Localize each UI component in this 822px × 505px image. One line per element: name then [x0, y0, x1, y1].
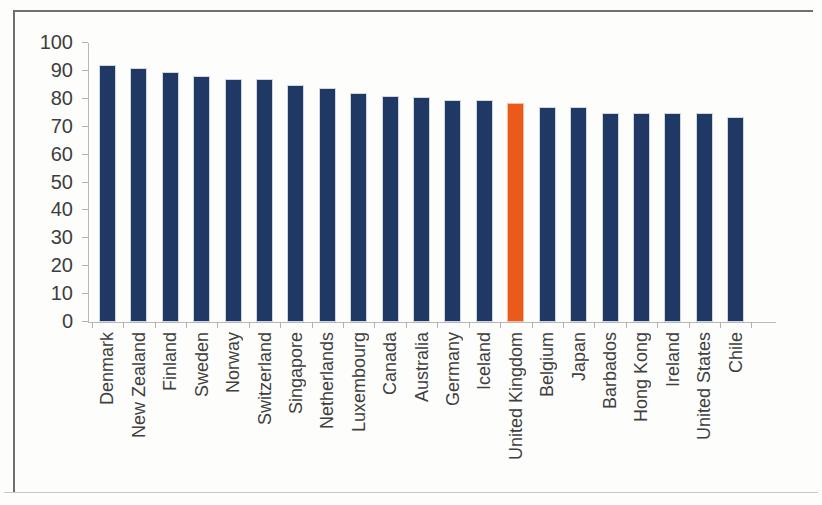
- x-axis-label-united-kingdom: United Kingdom: [507, 332, 525, 460]
- frame-border-bottom: [4, 492, 818, 493]
- bar-japan: [570, 107, 587, 322]
- x-axis-tick: [312, 322, 313, 328]
- y-axis-tick: 60: [82, 154, 88, 155]
- x-axis-tick: [437, 322, 438, 328]
- frame-border-top: [13, 10, 813, 12]
- x-axis-label-chile: Chile: [727, 332, 745, 373]
- bar-new-zealand: [130, 68, 147, 322]
- bar-germany: [444, 100, 461, 322]
- x-axis-label-switzerland: Switzerland: [256, 332, 274, 425]
- y-axis-tick: 0: [82, 321, 88, 322]
- chart-figure: 0102030405060708090100 DenmarkNew Zealan…: [0, 0, 822, 505]
- x-axis-tick: [155, 322, 156, 328]
- y-axis-tick-label: 40: [51, 199, 73, 219]
- y-axis-tick: 90: [82, 70, 88, 71]
- bar-netherlands: [319, 88, 336, 322]
- x-axis-line: [88, 322, 776, 323]
- bar-singapore: [287, 85, 304, 322]
- y-axis-tick: 50: [82, 182, 88, 183]
- y-axis-tick-label: 0: [62, 311, 73, 331]
- x-axis-label-australia: Australia: [413, 332, 431, 402]
- x-axis-tick: [374, 322, 375, 328]
- plot-area: 0102030405060708090100: [88, 43, 774, 322]
- x-axis-tick: [280, 322, 281, 328]
- bar-finland: [162, 72, 179, 322]
- y-axis-tick: 80: [82, 98, 88, 99]
- x-axis-tick: [186, 322, 187, 328]
- x-axis-label-japan: Japan: [570, 332, 588, 381]
- y-axis-tick-label: 10: [51, 283, 73, 303]
- x-axis-label-canada: Canada: [381, 332, 399, 395]
- y-axis-tick: 20: [82, 265, 88, 266]
- x-axis-label-germany: Germany: [444, 332, 462, 406]
- frame-border-left: [13, 10, 15, 493]
- x-axis-label-belgium: Belgium: [538, 332, 556, 397]
- x-axis-label-denmark: Denmark: [98, 332, 116, 405]
- x-axis-tick: [500, 322, 501, 328]
- y-axis-tick-label: 30: [51, 227, 73, 247]
- y-axis-tick-label: 50: [51, 172, 73, 192]
- x-axis-tick: [92, 322, 93, 328]
- bar-series: [88, 43, 774, 322]
- x-axis-label-iceland: Iceland: [475, 332, 493, 390]
- x-axis-tick: [563, 322, 564, 328]
- x-axis-tick: [720, 322, 721, 328]
- x-axis-tick: [123, 322, 124, 328]
- y-axis-tick: 100: [82, 42, 88, 43]
- x-axis-tick: [657, 322, 658, 328]
- x-axis-tick: [217, 322, 218, 328]
- x-axis-tick: [249, 322, 250, 328]
- bar-iceland: [476, 100, 493, 322]
- bar-united-states: [696, 113, 713, 322]
- x-axis-label-luxembourg: Luxembourg: [350, 332, 368, 432]
- x-axis-label-netherlands: Netherlands: [318, 332, 336, 429]
- x-axis-label-barbados: Barbados: [601, 332, 619, 409]
- x-axis-label-new-zealand: New Zealand: [130, 332, 148, 438]
- y-axis-tick-label: 100: [40, 32, 73, 52]
- bar-switzerland: [256, 79, 273, 322]
- x-axis-tick: [626, 322, 627, 328]
- x-axis-label-hong-kong: Hong Kong: [632, 332, 650, 422]
- x-axis-label-finland: Finland: [161, 332, 179, 391]
- x-axis-tick: [689, 322, 690, 328]
- bar-canada: [382, 96, 399, 322]
- x-axis-tick: [751, 322, 752, 328]
- bar-belgium: [539, 107, 556, 322]
- y-axis-tick-label: 90: [51, 60, 73, 80]
- bar-sweden: [193, 76, 210, 322]
- x-axis-labels: DenmarkNew ZealandFinlandSwedenNorwaySwi…: [88, 332, 774, 492]
- bar-australia: [413, 97, 430, 322]
- x-axis-label-ireland: Ireland: [664, 332, 682, 387]
- x-axis-label-singapore: Singapore: [287, 332, 305, 414]
- y-axis-tick: 70: [82, 126, 88, 127]
- y-axis-tick-label: 70: [51, 116, 73, 136]
- bar-ireland: [664, 113, 681, 322]
- y-axis-tick-label: 60: [51, 144, 73, 164]
- bar-barbados: [602, 113, 619, 322]
- y-axis-tick: 10: [82, 293, 88, 294]
- x-axis-tick: [532, 322, 533, 328]
- bar-hong-kong: [633, 113, 650, 322]
- x-axis-tick: [406, 322, 407, 328]
- bar-luxembourg: [350, 93, 367, 322]
- bar-united-kingdom: [507, 103, 524, 322]
- x-axis-label-norway: Norway: [224, 332, 242, 393]
- y-axis-tick: 30: [82, 237, 88, 238]
- x-axis-label-united-states: United States: [695, 332, 713, 440]
- x-axis-tick: [469, 322, 470, 328]
- bar-norway: [225, 79, 242, 322]
- x-axis-label-sweden: Sweden: [193, 332, 211, 397]
- y-axis-tick-label: 80: [51, 88, 73, 108]
- bar-chile: [727, 117, 744, 322]
- y-axis-tick: 40: [82, 209, 88, 210]
- x-axis-tick: [343, 322, 344, 328]
- bar-denmark: [99, 65, 116, 322]
- x-axis-tick: [594, 322, 595, 328]
- y-axis-tick-label: 20: [51, 255, 73, 275]
